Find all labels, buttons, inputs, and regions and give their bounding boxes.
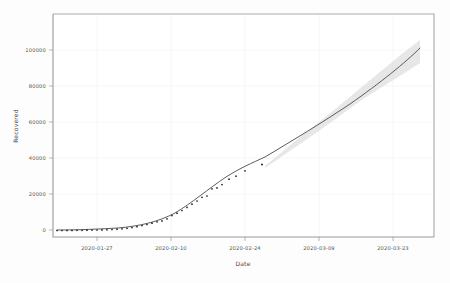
y-tick-label-100000: 100000 [25,47,46,53]
data-point [116,228,118,230]
data-point [221,184,223,186]
x-tick-label-2: 2020-02-10 [155,245,187,251]
data-point [186,207,188,209]
forecast-chart-figure: 100000 80000 60000 40000 20000 0 2020-01… [0,0,450,283]
data-point [121,228,123,230]
chart-canvas: 100000 80000 60000 40000 20000 0 2020-01… [0,0,450,283]
data-point [151,222,153,224]
data-point [201,196,203,198]
data-point [106,229,108,231]
data-point [81,229,83,231]
data-point [191,203,193,205]
data-point [211,188,213,190]
x-tick-label-3: 2020-02-24 [229,245,261,251]
data-point [181,210,183,212]
data-point [166,218,168,220]
plot-area-background [53,14,434,237]
x-tick-label-1: 2020-01-27 [81,245,113,251]
data-point [91,229,93,231]
data-point [56,230,58,232]
data-point [131,227,133,229]
data-point [261,164,263,166]
data-point [161,220,163,222]
y-axis-title: Recovered [12,109,19,142]
y-tick-label-20000: 20000 [29,191,46,197]
data-point [101,229,103,231]
y-tick-label-0: 0 [43,227,46,233]
data-point [171,215,173,217]
data-point [156,221,158,223]
data-point [126,227,128,229]
data-point [86,229,88,231]
data-point [228,178,230,180]
data-point [96,229,98,231]
data-point [111,229,113,231]
x-tickmarks [97,237,393,241]
data-point [146,224,148,226]
x-tick-label-5: 2020-03-23 [377,245,409,251]
data-point [196,200,198,202]
y-tickmarks [49,50,53,230]
data-point [206,195,208,197]
data-point [235,175,237,177]
y-tick-label-80000: 80000 [29,83,46,89]
data-point [66,230,68,232]
y-tick-label-40000: 40000 [29,155,46,161]
data-point [216,187,218,189]
x-tick-label-4: 2020-03-09 [303,245,335,251]
data-point [244,170,246,172]
data-point [76,229,78,231]
data-point [176,212,178,214]
data-point [141,225,143,227]
data-point [61,230,63,232]
data-point [71,230,73,232]
data-point [136,226,138,228]
y-tick-label-60000: 60000 [29,119,46,125]
x-axis-title: Date [235,260,250,267]
